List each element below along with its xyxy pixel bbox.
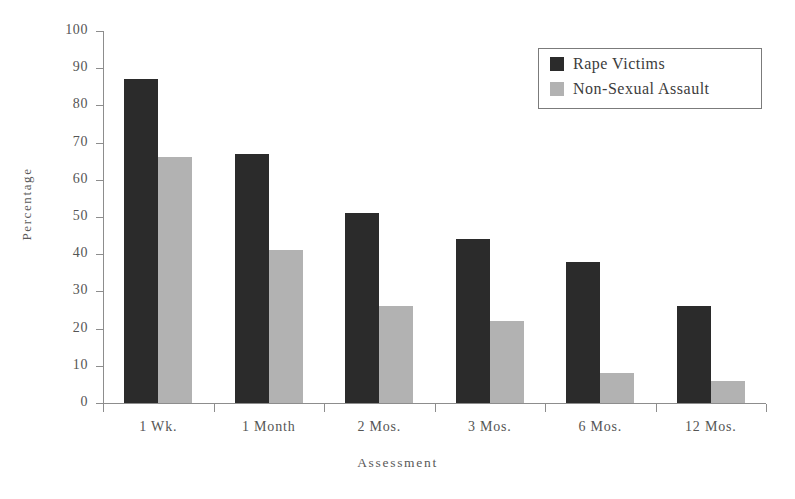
y-axis-tick-label: 0: [48, 395, 88, 409]
bar: [235, 154, 269, 403]
x-axis-tick-mark: [324, 404, 325, 412]
legend-item-non-sexual-assault: Non-Sexual Assault: [550, 80, 710, 98]
y-axis-title: Percentage: [19, 144, 35, 264]
bar-chart: Percentage 0102030405060708090100 1 Wk.1…: [0, 0, 795, 499]
y-axis-tick-mark: [96, 180, 103, 181]
bar: [269, 250, 303, 403]
y-axis-tick-mark: [96, 254, 103, 255]
y-axis-tick-label: 40: [48, 246, 88, 260]
x-axis-title: Assessment: [0, 455, 795, 471]
x-axis-tick-label: 3 Mos.: [430, 419, 550, 435]
y-axis-tick-label: 80: [48, 97, 88, 111]
y-axis-tick-mark: [96, 105, 103, 106]
bar: [345, 213, 379, 403]
legend-swatch-icon: [550, 82, 564, 96]
y-axis-tick-mark: [96, 291, 103, 292]
y-axis-tick-mark: [96, 403, 103, 404]
x-axis-tick-mark: [214, 404, 215, 412]
legend-item-label: Rape Victims: [573, 55, 665, 73]
y-axis-tick-label: 50: [48, 209, 88, 223]
x-axis-tick-label: 12 Mos.: [651, 419, 771, 435]
y-axis-tick-label: 10: [48, 358, 88, 372]
bar: [711, 381, 745, 403]
bar: [566, 262, 600, 403]
legend: Rape Victims Non-Sexual Assault: [538, 48, 762, 109]
x-axis-tick-mark: [103, 404, 104, 412]
legend-item-label: Non-Sexual Assault: [573, 80, 710, 98]
x-axis-tick-label: 2 Mos.: [319, 419, 439, 435]
legend-item-rape-victims: Rape Victims: [550, 55, 665, 73]
legend-swatch-icon: [550, 57, 564, 71]
y-axis-tick-mark: [96, 68, 103, 69]
bar: [456, 239, 490, 403]
y-axis-tick-label: 60: [48, 172, 88, 186]
y-axis-tick-label: 70: [48, 135, 88, 149]
x-axis-tick-mark: [435, 404, 436, 412]
x-axis-tick-mark: [766, 404, 767, 412]
x-axis-tick-label: 1 Wk.: [98, 419, 218, 435]
bar: [600, 373, 634, 403]
y-axis-tick-label: 30: [48, 283, 88, 297]
y-axis-tick-label: 20: [48, 321, 88, 335]
y-axis-tick-label: 90: [48, 60, 88, 74]
bar: [158, 157, 192, 403]
bar: [379, 306, 413, 403]
bar: [490, 321, 524, 403]
x-axis-tick-mark: [656, 404, 657, 412]
y-axis-tick-mark: [96, 329, 103, 330]
y-axis-tick-label: 100: [48, 23, 88, 37]
y-axis-tick-mark: [96, 366, 103, 367]
x-axis-tick-mark: [545, 404, 546, 412]
y-axis-tick-mark: [96, 217, 103, 218]
x-axis-tick-label: 6 Mos.: [540, 419, 660, 435]
bar: [124, 79, 158, 403]
bar: [677, 306, 711, 403]
x-axis-tick-label: 1 Month: [209, 419, 329, 435]
y-axis-tick-mark: [96, 31, 103, 32]
y-axis-tick-mark: [96, 143, 103, 144]
